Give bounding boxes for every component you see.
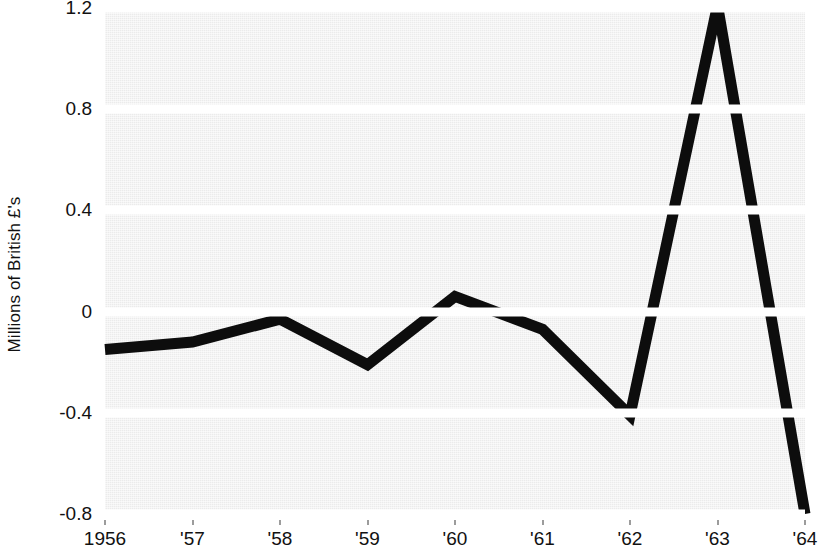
x-axis-tick-mark — [367, 520, 368, 525]
y-axis-title: Millions of British £'s — [0, 0, 30, 549]
gridline — [105, 307, 805, 316]
x-axis-tick-mark — [455, 520, 456, 525]
y-axis-tick-label: -0.8 — [30, 503, 92, 525]
x-axis-tick-label: '58 — [268, 528, 293, 549]
line-chart: Millions of British £'s 1.20.80.40-0.4-0… — [0, 0, 818, 549]
x-axis-tick-label: 1956 — [84, 528, 126, 549]
x-axis-tick-mark — [542, 520, 543, 525]
y-axis-tick-label: -0.4 — [30, 402, 92, 424]
x-axis-tick-labels: 1956'57'58'59'60'61'62'63'64 — [105, 520, 805, 549]
gridline — [105, 206, 805, 215]
plot-area — [105, 8, 805, 514]
series-line-millions-of-british-pounds — [105, 8, 805, 514]
y-axis-tick-label: 0.8 — [30, 98, 92, 120]
gridline — [105, 408, 805, 417]
y-axis-tick-label: 0.4 — [30, 199, 92, 221]
x-axis-tick-mark — [280, 520, 281, 525]
x-axis-tick-label: '59 — [355, 528, 380, 549]
x-axis-tick-mark — [192, 520, 193, 525]
y-axis-tick-label: 1.2 — [30, 0, 92, 19]
x-axis-tick-mark — [717, 520, 718, 525]
gridline — [105, 510, 805, 519]
x-axis-tick-mark — [805, 520, 806, 525]
series-polyline — [105, 5, 805, 514]
x-axis-tick-label: '60 — [443, 528, 468, 549]
y-axis-tick-labels: 1.20.80.40-0.4-0.8 — [30, 0, 92, 549]
x-axis-tick-label: '63 — [705, 528, 730, 549]
x-axis-tick-mark — [105, 520, 106, 525]
x-axis-tick-mark — [630, 520, 631, 525]
gridline — [105, 105, 805, 114]
x-axis-tick-label: '57 — [180, 528, 205, 549]
y-axis-tick-label: 0 — [30, 301, 92, 323]
x-axis-tick-label: '61 — [530, 528, 555, 549]
gridline — [105, 4, 805, 13]
x-axis-tick-label: '62 — [618, 528, 643, 549]
x-axis-tick-label: '64 — [793, 528, 818, 549]
